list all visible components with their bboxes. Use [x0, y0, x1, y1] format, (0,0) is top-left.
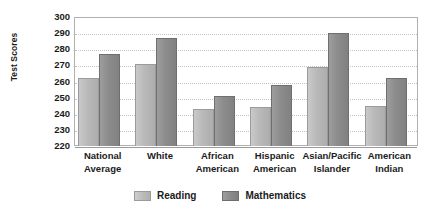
bar-reading-5[interactable]: [365, 106, 386, 146]
bar-mathematics-0[interactable]: [99, 54, 120, 146]
legend-swatch-icon: [222, 191, 239, 201]
y-tick-240: 240: [40, 109, 70, 119]
gridline-220: [75, 147, 417, 148]
bar-group: [189, 17, 246, 146]
bar-reading-3[interactable]: [250, 107, 271, 146]
bar-reading-2[interactable]: [193, 109, 214, 146]
bar-reading-1[interactable]: [135, 64, 156, 146]
bar-group: [74, 17, 131, 146]
bar-mathematics-5[interactable]: [386, 78, 407, 146]
y-tick-300: 300: [40, 12, 70, 22]
legend-item-mathematics[interactable]: Mathematics: [222, 190, 306, 201]
x-tick-label-line: Indian: [353, 163, 426, 176]
grouped-bar-chart: Test Scores 300290280270260250240230220 …: [0, 0, 440, 220]
y-tick-230: 230: [40, 125, 70, 135]
bars-layer: [74, 17, 418, 146]
y-tick-290: 290: [40, 28, 70, 38]
bar-mathematics-4[interactable]: [328, 33, 349, 146]
x-axis-tick-labels: NationalAverageWhiteAfricanAmericanHispa…: [74, 150, 418, 184]
bar-group: [303, 17, 360, 146]
y-axis-title: Test Scores: [9, 21, 19, 93]
legend-label: Reading: [157, 190, 196, 201]
y-tick-270: 270: [40, 60, 70, 70]
bar-mathematics-2[interactable]: [214, 96, 235, 146]
legend-item-reading[interactable]: Reading: [134, 190, 196, 201]
chart-legend: ReadingMathematics: [0, 190, 440, 201]
legend-label: Mathematics: [245, 190, 306, 201]
x-tick-label: AmericanIndian: [353, 150, 426, 175]
y-tick-280: 280: [40, 44, 70, 54]
bar-reading-0[interactable]: [78, 78, 99, 146]
bar-group: [131, 17, 188, 146]
legend-swatch-icon: [134, 191, 151, 201]
y-tick-250: 250: [40, 93, 70, 103]
y-tick-260: 260: [40, 77, 70, 87]
bar-mathematics-3[interactable]: [271, 85, 292, 146]
bar-group: [246, 17, 303, 146]
bar-reading-4[interactable]: [307, 67, 328, 146]
bar-mathematics-1[interactable]: [156, 38, 177, 146]
bar-group: [361, 17, 418, 146]
x-tick-label-line: American: [353, 150, 426, 163]
x-tick-label-line: Average: [66, 163, 139, 176]
